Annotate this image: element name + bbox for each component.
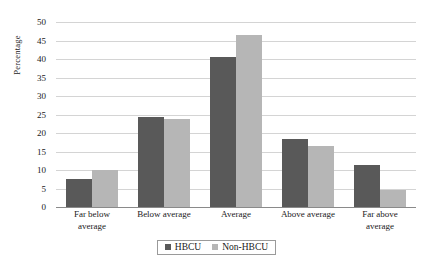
y-axis-tick-label: 50: [37, 18, 46, 27]
bar-group: [272, 22, 344, 207]
y-axis-tick-label: 25: [37, 110, 46, 119]
legend-label: Non-HBCU: [222, 242, 268, 252]
bar-chart: Percentage 50454035302520151050 Far belo…: [0, 0, 433, 266]
legend-swatch-icon: [212, 244, 218, 250]
y-axis-tick-label: 40: [37, 55, 46, 64]
x-axis-label-line: Average: [202, 209, 270, 221]
y-axis-tick-label: 15: [37, 147, 46, 156]
legend-item[interactable]: HBCU: [165, 242, 201, 252]
bar-group: [56, 22, 128, 207]
y-axis-tick-label: 20: [37, 129, 46, 138]
x-axis-category-label: Average: [200, 209, 272, 232]
bar-group: [344, 22, 416, 207]
y-axis-tick-label: 5: [42, 184, 47, 193]
y-axis-tick-label: 45: [37, 36, 46, 45]
y-axis-tick-label: 30: [37, 92, 46, 101]
plot-area: [56, 22, 416, 207]
x-axis-label-line: Above average: [274, 209, 342, 221]
x-axis-label-line: Far above: [346, 209, 414, 221]
x-axis-category-label: Far aboveaverage: [344, 209, 416, 232]
y-axis-tick-label: 10: [37, 166, 46, 175]
x-axis-category-label: Above average: [272, 209, 344, 232]
bar[interactable]: [380, 190, 406, 207]
legend-label: HBCU: [175, 242, 201, 252]
bar[interactable]: [66, 179, 92, 207]
bar[interactable]: [354, 165, 380, 207]
bar[interactable]: [236, 35, 262, 207]
bar[interactable]: [282, 139, 308, 207]
bar[interactable]: [164, 119, 190, 207]
axis-baseline: [56, 207, 416, 208]
x-axis-label-line: Below average: [130, 209, 198, 221]
bars-layer: [56, 22, 416, 207]
legend-item[interactable]: Non-HBCU: [212, 242, 268, 252]
bar[interactable]: [308, 146, 334, 207]
x-axis-label-line: average: [346, 221, 414, 233]
bar-group: [200, 22, 272, 207]
legend-swatch-icon: [165, 244, 171, 250]
bar[interactable]: [92, 170, 118, 207]
legend: HBCUNon-HBCU: [0, 240, 433, 255]
bar[interactable]: [138, 117, 164, 207]
x-axis-category-label: Far belowaverage: [56, 209, 128, 232]
legend-box: HBCUNon-HBCU: [157, 240, 276, 255]
x-axis-category-label: Below average: [128, 209, 200, 232]
x-axis-label-line: average: [58, 221, 126, 233]
bar-group: [128, 22, 200, 207]
bar[interactable]: [210, 57, 236, 207]
x-axis-category-labels: Far belowaverageBelow averageAverageAbov…: [56, 209, 416, 232]
y-axis-tick-label: 35: [37, 73, 46, 82]
y-axis-tick-label: 0: [42, 203, 47, 212]
x-axis-label-line: Far below: [58, 209, 126, 221]
y-axis-tick-labels: 50454035302520151050: [0, 22, 52, 207]
